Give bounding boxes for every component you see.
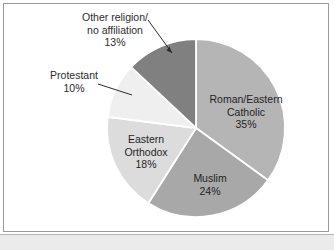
pie-value-eastern-orthodox: 18% [104,158,188,171]
pie-label-eastern-orthodox: Eastern Orthodox 18% [104,133,188,171]
pie-label-protestant-line1: Protestant [22,69,126,82]
pie-label-roman-eastern-catholic: Roman/Eastern Catholic 35% [194,93,298,131]
pie-label-eastern-orthodox-line2: Orthodox [104,146,188,159]
pie-label-muslim-line1: Muslim [172,172,248,185]
pie-label-other-religion-line2: no affiliation [56,24,174,37]
pie-label-eastern-orthodox-line1: Eastern [104,133,188,146]
pie-chart-figure: Other religion/ no affiliation 13% Prote… [0,0,334,250]
pie-label-other-religion: Other religion/ no affiliation 13% [56,11,174,49]
page-bottom-strip [0,234,334,250]
pie-value-other-religion: 13% [56,36,174,49]
pie-label-roman-eastern-catholic-line2: Catholic [194,106,298,119]
pie-label-protestant: Protestant 10% [22,69,126,94]
pie-label-muslim: Muslim 24% [172,172,248,197]
pie-label-roman-eastern-catholic-line1: Roman/Eastern [194,93,298,106]
pie-label-other-religion-line1: Other religion/ [56,11,174,24]
pie-value-protestant: 10% [22,82,126,95]
pie-value-roman-eastern-catholic: 35% [194,118,298,131]
pie-value-muslim: 24% [172,185,248,198]
